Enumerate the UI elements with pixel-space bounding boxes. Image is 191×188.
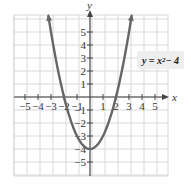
equation-suffix: − 4	[166, 55, 180, 66]
y-tick-label: 4	[81, 39, 87, 51]
y-tick-label: −4	[74, 143, 86, 155]
x-tick-label: 4	[139, 100, 145, 112]
x-tick-label: 5	[152, 100, 158, 112]
y-tick-label: −5	[74, 156, 86, 168]
y-tick-label: 2	[81, 65, 87, 77]
equation-prefix: y = x	[142, 55, 162, 66]
y-tick-label: −2	[74, 117, 86, 129]
y-tick-label: 1	[81, 78, 87, 90]
x-axis-label: x	[171, 91, 177, 103]
y-tick-label: 3	[81, 52, 87, 64]
x-tick-label: 3	[126, 100, 132, 112]
y-axis-label: y	[86, 0, 92, 11]
y-tick-label: 5	[81, 26, 87, 38]
x-tick-label: 1	[100, 100, 106, 112]
equation-label: y = x2 − 4	[137, 51, 184, 69]
parabola-chart: −5−4−3−2−112345−5−4−3−2−112345 x y	[0, 0, 191, 188]
grid	[14, 15, 168, 176]
x-tick-label: −4	[32, 100, 44, 112]
x-tick-label: −5	[19, 100, 31, 112]
x-tick-label: −3	[45, 100, 57, 112]
y-tick-label: −1	[74, 104, 86, 116]
